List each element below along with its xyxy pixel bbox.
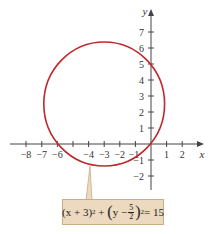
y-tick-label: 2 — [139, 107, 144, 118]
y-tick-label: 7 — [139, 27, 144, 38]
x-axis-arrow-icon — [197, 141, 204, 147]
equation-text: (x + 3)2 + (y − 52)2= 15 — [63, 200, 163, 224]
circle-curve — [44, 42, 165, 166]
y-tick-label: −2 — [133, 171, 144, 182]
callout-pointer — [86, 166, 92, 200]
eq-rhs: = 15 — [144, 206, 164, 218]
y-axis-label: y — [142, 5, 148, 17]
y-tick-label: 6 — [139, 43, 144, 54]
y-tick-label: 4 — [139, 75, 144, 86]
y-tick-label: −1 — [133, 155, 144, 166]
x-tick-label: −8 — [21, 149, 32, 160]
x-tick-label: −2 — [114, 149, 125, 160]
eq-term-1: (x + 3) — [62, 206, 92, 218]
y-tick-label: 3 — [139, 91, 144, 102]
x-tick-label: −3 — [99, 149, 110, 160]
eq-term-2: y − — [113, 206, 127, 218]
x-tick-label: −4 — [83, 149, 94, 160]
y-tick-label: 5 — [139, 59, 144, 70]
equation-callout: (x + 3)2 + (y − 52)2= 15 — [62, 199, 164, 225]
y-axis-arrow-icon — [148, 9, 154, 16]
eq-fraction: 52 — [128, 204, 134, 221]
x-tick-label: −6 — [52, 149, 63, 160]
eq-plus: + — [96, 206, 108, 218]
x-tick-label: 1 — [164, 149, 169, 160]
x-axis-label: x — [199, 148, 205, 160]
x-tick-label: −7 — [36, 149, 47, 160]
x-tick-label: 2 — [180, 149, 185, 160]
y-tick-label: 1 — [139, 123, 144, 134]
